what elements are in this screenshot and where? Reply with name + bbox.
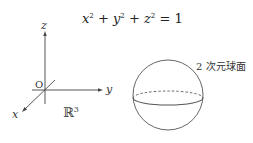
eq-exp: 2 [151, 12, 155, 20]
sphere-equation: x2 + y2 + z2 = 1 [82, 11, 183, 26]
sphere-outline [133, 60, 203, 130]
space-label: ℝ3 [63, 105, 79, 120]
z-axis-label: z [41, 20, 47, 31]
r-symbol: ℝ [63, 105, 74, 120]
equator-back [133, 91, 203, 98]
origin-label: O [35, 80, 43, 90]
r-exponent: 3 [74, 105, 79, 114]
y-axis-arrowhead [98, 88, 103, 91]
y-axis-label: y [106, 84, 112, 95]
equator-front [133, 98, 203, 105]
sphere-label: 2 次元球面 [196, 58, 246, 73]
eq-z: z [144, 11, 151, 26]
eq-exp: 2 [89, 12, 93, 20]
coordinate-axes [22, 31, 103, 112]
eq-exp: 2 [120, 12, 124, 20]
x-axis-label: x [12, 109, 18, 120]
eq-rhs: = 1 [159, 11, 182, 26]
sphere-drawing [133, 60, 203, 130]
